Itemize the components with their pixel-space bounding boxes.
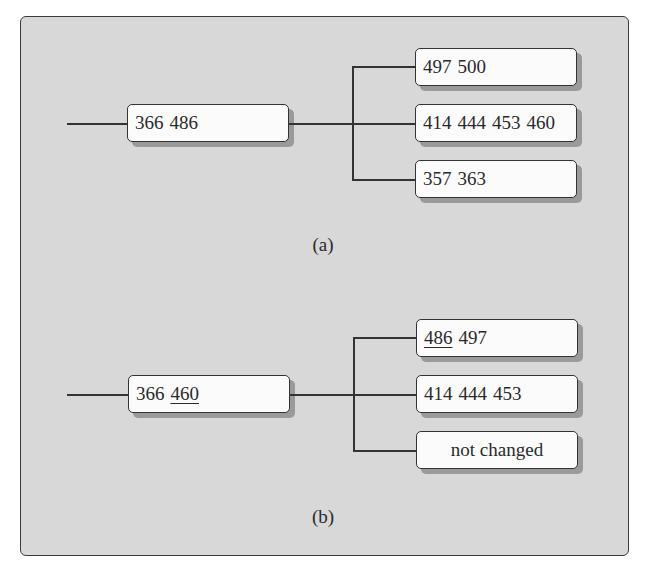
not-changed-label: not changed xyxy=(451,439,543,460)
key: 363 xyxy=(458,168,487,189)
key: 460 xyxy=(527,112,556,133)
caption-b: (b) xyxy=(293,506,353,528)
key: 357 xyxy=(423,168,452,189)
caption-a: (a) xyxy=(293,234,353,256)
child-node-1: 486497 xyxy=(416,319,578,357)
key: 366 xyxy=(136,383,165,404)
key: 414 xyxy=(424,383,453,404)
incoming-edge xyxy=(67,123,127,125)
child-node-2: 414444453460 xyxy=(415,104,577,142)
root-node: 366486 xyxy=(127,104,289,142)
key: 444 xyxy=(459,383,488,404)
child-node-3: not changed xyxy=(416,431,578,469)
incoming-edge xyxy=(67,394,128,396)
key-underlined: 486 xyxy=(424,327,453,348)
child-edge-1 xyxy=(352,66,415,68)
key: 453 xyxy=(492,112,521,133)
child-edge-3 xyxy=(353,450,416,452)
key: 366 xyxy=(135,112,164,133)
key: 500 xyxy=(458,56,487,77)
child-node-3: 357363 xyxy=(415,160,577,198)
key: 414 xyxy=(423,112,452,133)
key: 497 xyxy=(459,327,488,348)
child-node-1: 497500 xyxy=(415,48,577,86)
branch-connector xyxy=(353,337,355,452)
key-underlined: 460 xyxy=(171,383,200,404)
child-edge-1 xyxy=(353,337,416,339)
figure-panel xyxy=(20,16,629,556)
key: 444 xyxy=(458,112,487,133)
root-node: 366460 xyxy=(128,375,290,413)
branch-connector xyxy=(352,66,354,181)
key: 497 xyxy=(423,56,452,77)
child-edge-3 xyxy=(352,179,415,181)
key: 453 xyxy=(493,383,522,404)
key: 486 xyxy=(170,112,199,133)
child-node-2: 414444453 xyxy=(416,375,578,413)
